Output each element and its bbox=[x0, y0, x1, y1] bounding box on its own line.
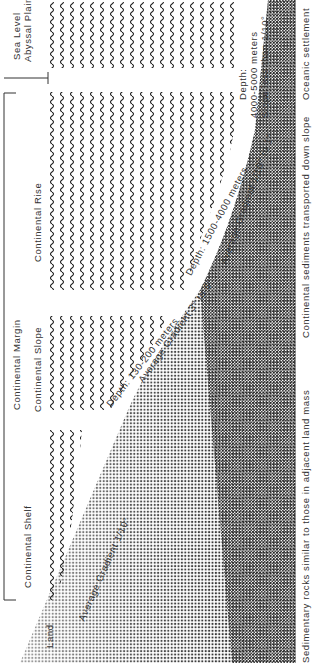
continental-shelf-label: Continental Shelf bbox=[22, 505, 33, 588]
abyssal-plain-label: Abyssal Plain bbox=[22, 0, 33, 62]
abyssal-sediment-label: Oceanic settlement bbox=[300, 8, 311, 100]
continental-margin-diagram: Sea Level Abyssal Plain Continental Marg… bbox=[0, 0, 316, 663]
shelf-sediment-label: Sedimentary rocks similar to those in ad… bbox=[300, 390, 311, 663]
continental-margin-label: Continental Margin bbox=[11, 319, 22, 410]
abyssal-depth-label: Depth: bbox=[237, 68, 248, 100]
continental-rise-label: Continental Rise bbox=[32, 183, 43, 262]
continental-slope-label: Continental Slope bbox=[32, 327, 43, 412]
sea-level-marker bbox=[4, 72, 48, 84]
abyssal-depth-value: 4000-5000 meters bbox=[248, 31, 259, 118]
abyssal-gradient-label: Slope less than 1/10° bbox=[259, 16, 270, 119]
sea-level-label: Sea Level bbox=[11, 12, 22, 60]
slope-sediment-label: Continental sediments transported down s… bbox=[300, 116, 311, 338]
land-label: Land bbox=[44, 624, 55, 648]
